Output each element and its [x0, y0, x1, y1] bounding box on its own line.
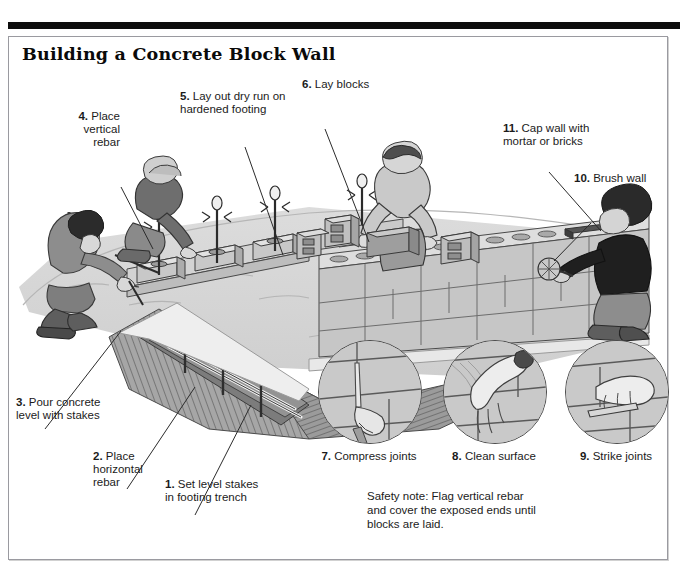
step-text-4: Place vertical rebar — [84, 110, 120, 148]
step-text-6: Lay blocks — [315, 78, 369, 90]
inset-clean-surface — [443, 340, 547, 444]
step-number-10: 10. — [574, 172, 590, 184]
safety-note: Safety note: Flag vertical rebar and cov… — [367, 489, 536, 531]
step-text-1: Set level stakes in footing trench — [165, 478, 258, 503]
inset-label-9: Strike joints — [593, 450, 652, 462]
inset-number-8: 8. — [452, 450, 462, 462]
step-label-6: 6. Lay blocks — [302, 78, 422, 91]
inset-caption-8: 8. Clean surface — [434, 450, 554, 462]
diagram-page: Building a Concrete Block Wall — [0, 0, 695, 572]
inset-caption-9: 9. Strike joints — [556, 450, 676, 462]
inset-strike-joints — [565, 340, 669, 444]
step-number-5: 5. — [180, 90, 190, 102]
step-text-3: Pour concrete level with stakes — [16, 396, 100, 421]
step-number-2: 2. — [93, 450, 103, 462]
step-label-3: 3. Pour concrete level with stakes — [16, 396, 156, 422]
step-number-4: 4. — [78, 110, 88, 122]
step-label-11: 11. Cap wall with mortar or bricks — [503, 122, 653, 148]
step-number-11: 11. — [503, 122, 518, 134]
step-number-1: 1. — [165, 478, 175, 490]
step-label-4: 4. Place vertical rebar — [44, 110, 120, 150]
inset-label-8: Clean surface — [465, 450, 536, 462]
inset-compress-joints — [318, 340, 422, 444]
step-label-10: 10. Brush wall — [574, 172, 684, 185]
inset-label-7: Compress joints — [334, 450, 416, 462]
step-text-10: Brush wall — [593, 172, 646, 184]
inset-caption-7: 7. Compress joints — [306, 450, 432, 462]
step-label-5: 5. Lay out dry run on hardened footing — [180, 90, 340, 116]
step-number-3: 3. — [16, 396, 26, 408]
step-number-6: 6. — [302, 78, 312, 90]
step-text-5: Lay out dry run on hardened footing — [180, 90, 286, 115]
inset-number-7: 7. — [321, 450, 331, 462]
inset-number-9: 9. — [580, 450, 590, 462]
top-rule — [8, 22, 680, 29]
step-label-1: 1. Set level stakes in footing trench — [165, 478, 315, 504]
